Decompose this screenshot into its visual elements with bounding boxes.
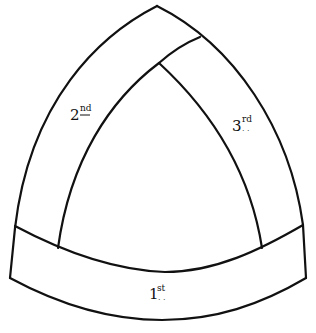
label-first: 1 st . . [149, 283, 166, 303]
svg-text:nd: nd [80, 103, 92, 113]
third-band-inner-edge [159, 63, 262, 248]
vault-diagram: 2 nd 3 rd . . 1 st . . [0, 0, 316, 333]
label-second: 2 nd [70, 103, 92, 124]
label-third: 3 rd . . [232, 114, 252, 135]
svg-text:st: st [157, 283, 166, 293]
svg-text:. .: . . [242, 124, 250, 133]
outer-arch-left [10, 6, 157, 278]
svg-text:. .: . . [158, 293, 166, 302]
svg-text:2: 2 [70, 106, 80, 124]
svg-text:rd: rd [242, 114, 252, 124]
svg-text:3: 3 [232, 117, 242, 135]
